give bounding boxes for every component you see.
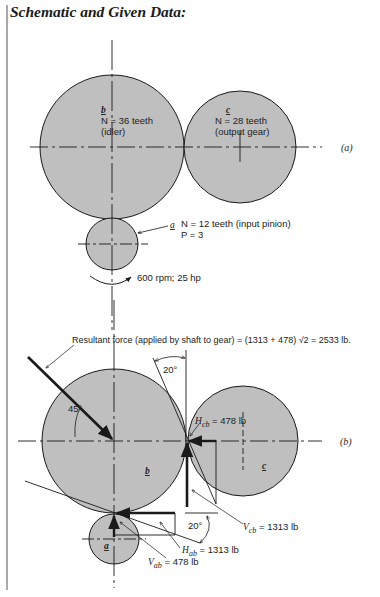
input-speed-power: 600 rpm; 25 hp [137, 272, 201, 283]
vcb-label: Vcb = 1313 lb [243, 521, 298, 535]
angle-20-bottom: 20° [188, 520, 203, 531]
gear-b-fbd-letter: b [145, 466, 150, 476]
vab-label: Vab = 478 lb [148, 556, 199, 570]
gear-schematic: b N = 36 teeth (idler) c N = 28 teeth (o… [0, 0, 380, 597]
gear-b-letter: b [101, 105, 106, 115]
rotation-arrow-icon [90, 276, 131, 284]
gear-a-fbd-letter: a [104, 541, 109, 551]
gear-a-letter: a [170, 220, 175, 230]
gear-b-teeth: N = 36 teeth [101, 115, 153, 126]
gear-c-role: (output gear) [215, 126, 269, 137]
diagram-a: b N = 36 teeth (idler) c N = 28 teeth (o… [30, 40, 353, 330]
resultant-label: Resultant force (applied by shaft to gea… [72, 335, 351, 345]
angle-20-top: 20° [163, 364, 178, 375]
gear-a-teeth: N = 12 teeth (input pinion) [181, 218, 291, 229]
gear-a-pitch: P = 3 [181, 229, 203, 240]
diagram-b: Resultant force (applied by shaft to gea… [18, 300, 352, 588]
panel-label-b: (b) [340, 436, 352, 448]
gear-b-role: (idler) [101, 126, 125, 137]
gear-c-teeth: N = 28 teeth [215, 115, 267, 126]
panel-label-a: (a) [341, 142, 353, 154]
angle-45-label: 45° [68, 403, 83, 414]
